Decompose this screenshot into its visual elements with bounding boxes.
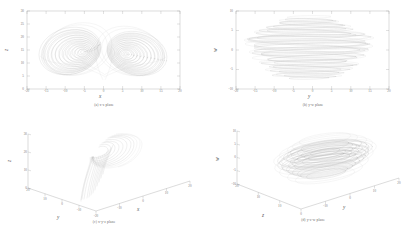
panel-a-ytick-0: 0 xyxy=(13,87,24,91)
panel-b-plot-area xyxy=(209,0,417,116)
panel-b-xtick-1: -15 xyxy=(246,89,264,93)
panel-a-trajectory xyxy=(34,15,172,84)
panel-a-ytick-6: 30 xyxy=(13,9,24,13)
panel-c-trajectory xyxy=(81,133,142,202)
panel-d-ytick-2: 20 xyxy=(229,184,245,188)
panel-d-ztick-1: -5 xyxy=(223,168,236,172)
panel-d-xtick-1: -10 xyxy=(318,204,334,208)
panel-d-trajectory xyxy=(272,130,379,187)
panel-d-ztick-4: 10 xyxy=(223,129,236,133)
panel-a-xtick-4: 0 xyxy=(95,89,113,93)
panel-b-xtick-7: 15 xyxy=(361,89,379,93)
panel-b-xticks xyxy=(236,11,389,89)
panel-d-wticks xyxy=(237,131,240,185)
panel-c-caption: (c) x-y-z plane xyxy=(0,220,208,224)
panel-b-ytick-1: -5 xyxy=(221,67,233,71)
panel-b-xaxis-label: y xyxy=(308,93,310,99)
panel-c-plot-area xyxy=(0,116,208,231)
panel-c-ytick-0: -20 xyxy=(88,214,104,218)
panel-a-xtick-6: 10 xyxy=(133,89,151,93)
panel-c-xaxis-label: x xyxy=(137,206,139,212)
panel-b-yaxis-label: w xyxy=(212,48,218,51)
panel-b-yw-plane: -20 -15 -10 -5 0 5 10 15 20 -10 -5 0 5 1… xyxy=(209,0,417,116)
panel-a-xtick-5: 5 xyxy=(114,89,132,93)
panel-c-zaxis-label: z xyxy=(6,160,12,162)
panel-a-xz-plane: -20 -15 -10 -5 0 5 10 15 20 0 5 10 15 20… xyxy=(0,0,208,116)
panel-a-xaxis-label: x xyxy=(99,93,101,99)
panel-a-ytick-1: 5 xyxy=(13,74,24,78)
figure-canvas: -20 -15 -10 -5 0 5 10 15 20 0 5 10 15 20… xyxy=(0,0,417,231)
panel-d-caption: (d) y-z-w plane xyxy=(209,218,417,222)
panel-a-ytick-3: 15 xyxy=(13,48,24,52)
panel-d-ytick-1b: 10 xyxy=(250,195,266,199)
panel-c-ytick-4: 20 xyxy=(20,188,36,192)
panel-b-xtick-4: 0 xyxy=(304,89,322,93)
panel-a-xtick-1: -15 xyxy=(37,89,55,93)
panel-c-ytick-3: 10 xyxy=(37,197,53,201)
panel-a-xtick-7: 15 xyxy=(152,89,170,93)
panel-b-xtick-3: -5 xyxy=(284,89,302,93)
panel-c-ztick-2: 20 xyxy=(16,150,27,154)
panel-c-xticks xyxy=(120,181,191,206)
panel-b-trajectory xyxy=(244,15,374,79)
panel-c-xtick-4: 20 xyxy=(182,184,198,188)
panel-d-ztick-3: 5 xyxy=(223,142,236,146)
panel-c-ztick-1: 10 xyxy=(16,168,27,172)
panel-b-ytick-3: 5 xyxy=(221,28,233,32)
panel-d-waxis-label: w xyxy=(214,157,220,160)
panel-b-xtick-2: -10 xyxy=(265,89,283,93)
panel-a-ytick-5: 25 xyxy=(13,22,24,26)
panel-a-ytick-2: 10 xyxy=(13,61,24,65)
panel-c-xtick-1: -10 xyxy=(112,206,128,210)
panel-d-xtick-4: 20 xyxy=(391,181,407,185)
panel-a-caption: (a) x-z plane xyxy=(0,103,208,107)
panel-a-ytick-4: 20 xyxy=(13,35,24,39)
panel-d-ytick-0: 0 xyxy=(293,212,309,216)
panel-d-xtick-3: 10 xyxy=(367,189,383,193)
panel-b-yticks xyxy=(236,11,389,89)
panel-b-xtick-5: 5 xyxy=(323,89,341,93)
panel-b-xtick-6: 10 xyxy=(342,89,360,93)
panel-c-xyz-plane: 0 10 20 30 20 10 0 -10 -20 -10 0 10 20 z… xyxy=(0,116,208,231)
panel-d-xtick-2: 0 xyxy=(342,196,358,200)
panel-b-xtick-8: 20 xyxy=(380,89,398,93)
panel-a-yticks xyxy=(27,11,180,89)
panel-a-xticks xyxy=(27,11,180,89)
panel-a-plot-area xyxy=(0,0,208,116)
panel-d-ztick-2: 0 xyxy=(223,155,236,159)
panel-a-xtick-8: 20 xyxy=(171,89,189,93)
panel-c-xtick-2: 0 xyxy=(135,199,151,203)
panel-b-ytick-2: 0 xyxy=(221,48,233,52)
panel-c-xtick-3: 10 xyxy=(159,191,175,195)
panel-c-ytick-1: -10 xyxy=(71,208,87,212)
panel-d-yaxis-label: y xyxy=(343,204,345,210)
panel-d-yticks xyxy=(326,178,400,204)
panel-d-ytick-1: 10 xyxy=(272,204,288,208)
panel-b-ytick-4: 10 xyxy=(221,9,233,13)
panel-c-ytick-2: 0 xyxy=(54,202,70,206)
panel-a-xtick-3: -5 xyxy=(75,89,93,93)
panel-c-ztick-3: 30 xyxy=(16,132,27,136)
panel-d-yzw-plane: -10 -5 0 5 10 20 10 10 0 -10 0 10 20 w z… xyxy=(209,116,417,231)
panel-d-plot-area xyxy=(209,116,417,231)
panel-b-caption: (b) y-w plane xyxy=(209,103,417,107)
panel-c-zticks xyxy=(28,134,31,189)
panel-a-yaxis-label: z xyxy=(3,49,9,51)
panel-b-ytick-0: -10 xyxy=(221,87,233,91)
panel-a-xtick-2: -10 xyxy=(56,89,74,93)
